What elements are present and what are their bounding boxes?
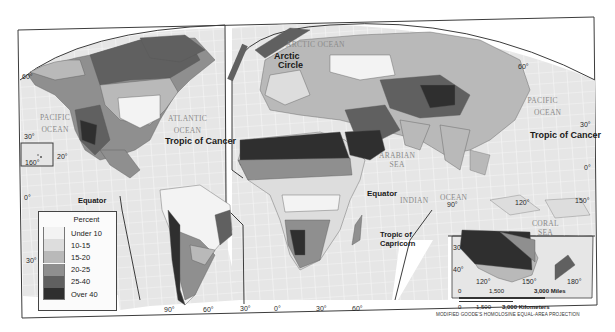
latitude-label: 30° [453,244,464,251]
legend-label: 20-25 [71,265,90,274]
latitude-label: 30° [24,133,35,140]
pacific-ocean-label-east: PACIFIC OCEAN [524,96,561,118]
longitude-label: 60° [203,306,214,313]
longitude-label: 90° [164,306,175,313]
longitude-label: 180° [567,278,581,285]
legend-swatch [43,264,65,276]
legend-swatch [43,288,65,300]
coral-sea-label: CORAL SEA [532,219,559,238]
indian-ocean-label: INDIAN [400,196,428,205]
scale-label: 0 [458,288,461,294]
legend-item: 15-20 [43,251,112,263]
water-label-line: OCEAN [40,125,70,134]
legend-swatch [43,227,65,239]
legend-label: 15-20 [71,253,90,262]
tropic-of-capricorn-label: Tropic of [380,231,412,239]
water-label-line: CORAL [532,219,559,228]
latitude-label: 40° [453,266,464,273]
latitude-label: 60° [22,73,33,80]
scale-label: 3,000 Kilometers [502,304,550,310]
latitude-label: 20° [57,153,68,160]
water-label-line: SEA [532,228,559,237]
water-label-line: SEA [379,160,415,169]
longitude-label: 0° [274,305,281,312]
longitude-label: 150° [575,197,589,204]
longitude-label: 30° [316,305,327,312]
water-label-line: OCEAN [168,126,207,135]
scale-line-miles [459,297,545,299]
arctic-circle-label: Circle [278,61,303,70]
longitude-label: 90° [447,201,458,208]
latitude-label: 30° [26,257,37,264]
legend-item: 10-15 [43,239,112,251]
tropic-of-cancer-label-west: Tropic of Cancer [165,137,236,146]
pacific-ocean-label-west: PACIFIC OCEAN [40,113,70,135]
longitude-label: 120° [515,199,529,206]
latitude-label: 0° [584,164,591,171]
water-label-line: PACIFIC [40,113,70,122]
latitude-label: 30° [580,121,591,128]
longitude-label: 160° [25,159,39,166]
water-label-line: OCEAN [534,108,561,117]
legend-item: 25-40 [43,276,112,288]
longitude-label: 150° [522,278,536,285]
legend: Percent Under 10 10-15 15-20 20-25 25-40… [38,211,117,311]
atlantic-ocean-label: ATLANTIC OCEAN [168,114,207,136]
legend-item: Under 10 [43,227,112,239]
water-label-line: ATLANTIC [168,114,207,123]
longitude-label: 120° [476,278,490,285]
equator-label-east: Equator [367,190,397,198]
legend-label: 25-40 [71,277,90,286]
projection-label: MODIFIED GOODE'S HOMOLOSINE EQUAL-AREA P… [436,312,580,317]
legend-label: Under 10 [71,229,102,238]
scale-label: 1,500 [476,304,491,310]
arabian-sea-label: ARABIAN SEA [379,151,415,170]
legend-swatch [43,239,65,251]
legend-label: 10-15 [71,241,90,250]
tropic-of-capricorn-label: Capricorn [380,240,415,248]
longitude-label: 60° [352,305,363,312]
scale-label: 1,500 [489,288,504,294]
scale-line-km [459,301,513,302]
scale-label: 3,000 Miles [534,288,566,294]
equator-label-west: Equator [78,197,106,205]
legend-item: 20-25 [43,264,112,276]
latitude-label: 0° [24,194,31,201]
scale-label: 0 [458,304,461,310]
longitude-label: 30° [240,305,251,312]
legend-title: Percent [61,215,112,224]
latitude-label: 60° [518,63,529,70]
legend-item: Over 40 [43,288,112,300]
legend-swatch [43,251,65,263]
legend-label: Over 40 [71,290,98,299]
water-label-line: PACIFIC [524,96,561,105]
tropic-of-cancer-label-east: Tropic of Cancer [530,131,601,140]
legend-swatch [43,276,65,288]
water-label-line: ARABIAN [379,151,415,160]
arctic-ocean-label: ARCTIC OCEAN [286,40,345,49]
